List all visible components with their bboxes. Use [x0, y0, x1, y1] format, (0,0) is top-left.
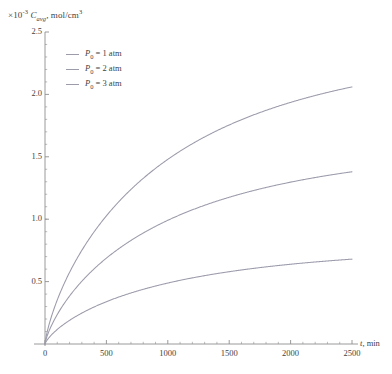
y-tick-label: 0.5 [20, 276, 42, 286]
chart-legend: P0 = 1 atm P0 = 2 atm P0 = 3 atm [66, 47, 122, 92]
y-tick-label: 2.5 [20, 26, 42, 36]
x-tick-label: 1000 [148, 348, 188, 358]
legend-label-p0-3atm: P0 = 3 atm [85, 76, 122, 94]
y-axis-label: ×10-3 Cavg, mol/cm3 [8, 8, 82, 22]
legend-swatch-icon [66, 84, 79, 85]
legend-item-p0-3atm: P0 = 3 atm [66, 77, 122, 92]
plot-area [0, 0, 392, 374]
legend-rest: = 2 atm [93, 63, 121, 73]
y-axis-label-units-exponent: 3 [79, 8, 82, 15]
x-tick-label: 1500 [209, 348, 249, 358]
x-tick-label: 2500 [332, 348, 372, 358]
y-tick-label: 2.0 [20, 88, 42, 98]
y-tick-label: 1.0 [20, 213, 42, 223]
series-line-3 [45, 87, 352, 344]
y-axis-label-units: , mol/cm [46, 10, 79, 20]
y-tick-label: 1.5 [20, 151, 42, 161]
x-axis-label-units: , min [362, 338, 379, 348]
legend-rest: = 1 atm [93, 48, 121, 58]
x-tick-label: 500 [86, 348, 126, 358]
y-axis-label-subscript: avg [36, 15, 46, 22]
y-axis-label-exponent: -3 [22, 8, 28, 15]
x-axis-label: t, min [360, 338, 380, 348]
chart-figure: ×10-3 Cavg, mol/cm3 P0 = 1 atm P0 = 2 at… [0, 0, 392, 374]
y-axis-label-prefix: ×10 [8, 10, 22, 20]
legend-rest: = 3 atm [93, 78, 121, 88]
series-line-2 [45, 172, 352, 344]
x-tick-label: 2000 [271, 348, 311, 358]
legend-swatch-icon [66, 54, 79, 55]
legend-swatch-icon [66, 69, 79, 70]
x-tick-label: 0 [25, 348, 65, 358]
